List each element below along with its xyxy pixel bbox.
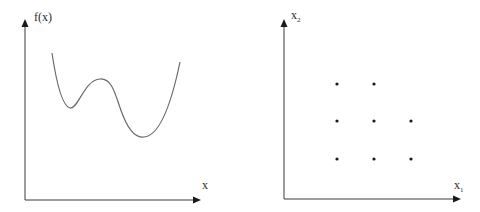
grid-search-svg: x2 x1 — [240, 0, 480, 212]
x-axis-arrow-icon — [453, 196, 461, 203]
function-plot-svg: f(x) x — [0, 0, 240, 212]
grid-point — [372, 119, 375, 122]
grid-points — [335, 82, 412, 160]
grid-point — [335, 119, 338, 122]
grid-search-panel: x2 x1 — [240, 0, 480, 212]
y-axis-label: f(x) — [34, 10, 52, 24]
function-plot-panel: f(x) x — [0, 0, 240, 212]
grid-point — [409, 119, 412, 122]
x-axis-label: x1 — [454, 178, 464, 194]
y-axis-arrow-icon — [281, 19, 288, 27]
grid-point — [372, 157, 375, 160]
y-axis-label: x2 — [291, 8, 301, 24]
y-axis-arrow-icon — [22, 19, 29, 27]
grid-point — [335, 82, 338, 85]
y-axis-label-subscript: 2 — [297, 16, 301, 24]
grid-point — [372, 82, 375, 85]
grid-point — [335, 157, 338, 160]
x-axis-label-subscript: 1 — [460, 186, 464, 194]
x-axis-label: x — [202, 178, 208, 192]
x-axis-arrow-icon — [193, 197, 201, 204]
grid-point — [409, 157, 412, 160]
function-curve — [52, 53, 180, 137]
